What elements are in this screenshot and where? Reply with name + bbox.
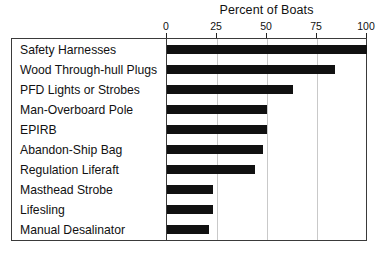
bar bbox=[167, 225, 209, 234]
chart-row: Abandon-Ship Bag bbox=[12, 140, 366, 160]
bar bbox=[167, 45, 367, 54]
plot-frame: Safety HarnessesWood Through-hull PlugsP… bbox=[11, 38, 367, 241]
bar bbox=[167, 105, 267, 114]
category-label: Manual Desalinator bbox=[20, 220, 125, 240]
chart-row: Masthead Strobe bbox=[12, 180, 366, 200]
category-label: Masthead Strobe bbox=[20, 180, 113, 200]
bar bbox=[167, 65, 335, 74]
category-label: Wood Through-hull Plugs bbox=[20, 60, 157, 80]
chart-row: Safety Harnesses bbox=[12, 40, 366, 60]
x-tick-label: 50 bbox=[260, 20, 272, 32]
chart-row: Man-Overboard Pole bbox=[12, 100, 366, 120]
category-label: Abandon-Ship Bag bbox=[20, 140, 122, 160]
chart-row: Wood Through-hull Plugs bbox=[12, 60, 366, 80]
category-label: PFD Lights or Strobes bbox=[20, 80, 140, 100]
category-label: Man-Overboard Pole bbox=[20, 100, 133, 120]
bar bbox=[167, 125, 267, 134]
bar bbox=[167, 205, 213, 214]
chart-title: Percent of Boats bbox=[166, 3, 367, 17]
x-tick-label: 75 bbox=[310, 20, 322, 32]
chart-row: PFD Lights or Strobes bbox=[12, 80, 366, 100]
bar bbox=[167, 165, 255, 174]
category-label: Lifesling bbox=[20, 200, 65, 220]
x-tick-label: 100 bbox=[357, 20, 375, 32]
bar-chart: Percent of Boats 0255075100 Safety Harne… bbox=[0, 0, 389, 253]
category-label: Safety Harnesses bbox=[20, 40, 116, 60]
x-tick-label: 0 bbox=[163, 20, 169, 32]
x-axis: 0255075100 bbox=[166, 20, 366, 38]
chart-row: Regulation Liferaft bbox=[12, 160, 366, 180]
bar bbox=[167, 185, 213, 194]
chart-rows: Safety HarnessesWood Through-hull PlugsP… bbox=[12, 39, 366, 240]
chart-row: Manual Desalinator bbox=[12, 220, 366, 240]
chart-row: EPIRB bbox=[12, 120, 366, 140]
chart-row: Lifesling bbox=[12, 200, 366, 220]
category-label: EPIRB bbox=[20, 120, 57, 140]
category-label: Regulation Liferaft bbox=[20, 160, 119, 180]
bar bbox=[167, 85, 293, 94]
x-tick-label: 25 bbox=[210, 20, 222, 32]
bar bbox=[167, 145, 263, 154]
